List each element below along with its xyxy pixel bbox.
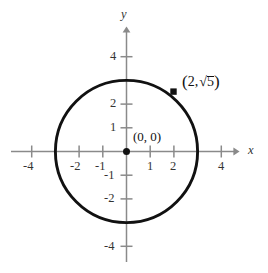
y-tick-label-neg4: -4: [104, 240, 114, 253]
point-label-close-paren: ): [214, 72, 220, 91]
y-tick-label-neg2: -2: [104, 192, 114, 205]
radical-overbar: [207, 76, 214, 77]
y-tick-label-4: 4: [110, 50, 116, 63]
x-tick-label-1: 1: [147, 160, 153, 173]
point-on-circle-marker: [170, 88, 176, 94]
y-axis-label: y: [121, 8, 127, 21]
x-axis-label: x: [248, 144, 254, 157]
origin-point-marker: [123, 148, 130, 155]
x-tick-label-neg2: -2: [70, 160, 80, 173]
point-coordinate-label: (2, √5): [182, 73, 220, 90]
x-tick-label-2: 2: [170, 160, 176, 173]
y-tick-label-neg1: -1: [104, 169, 114, 182]
origin-coordinate-label: (0, 0): [133, 130, 161, 143]
x-tick-label-neg4: -4: [23, 160, 33, 173]
point-label-x-value: 2,: [188, 74, 199, 89]
square-root-glyph: √5: [199, 74, 214, 89]
y-tick-label-2: 2: [110, 97, 116, 110]
y-tick-label-1: 1: [110, 121, 116, 134]
x-tick-label-4: 4: [218, 160, 224, 173]
circle-graph-figure: y x -4 -2 -1 1 2 4 4 2 1 -1 -2 -4 (0, 0)…: [0, 0, 268, 273]
